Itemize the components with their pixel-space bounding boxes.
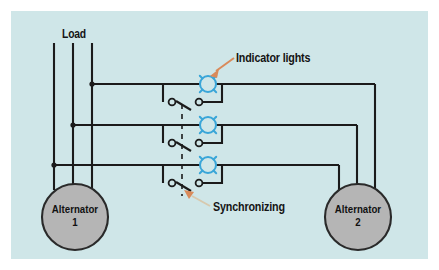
switch-contact-left-3[interactable] — [169, 180, 176, 187]
bus-phase-2 — [70, 122, 357, 192]
alternator-1-number: 1 — [46, 216, 104, 229]
lamp-ray-3d — [214, 171, 217, 174]
junction-dot-1 — [89, 81, 94, 86]
alternator-2-number: 2 — [329, 216, 387, 229]
lamp-ray-3a — [200, 157, 203, 160]
switch-contact-right-1[interactable] — [196, 99, 203, 106]
alternator-1-name: Alternator — [46, 203, 104, 216]
lamp-ray-3b — [214, 157, 217, 160]
callout-arrow-line-2 — [192, 196, 210, 206]
switch-blade-1 — [176, 101, 191, 110]
bus-phase-3 — [51, 162, 339, 192]
indicator-lamp-1 — [200, 76, 216, 92]
switch-contact-left-1[interactable] — [169, 99, 176, 106]
left-feeder-lines — [54, 43, 92, 190]
lamp-ray-2c — [200, 131, 203, 134]
switch-branch-1 — [163, 84, 222, 110]
synchronizing-callout-arrow — [184, 190, 210, 206]
load-label: Load — [62, 27, 86, 41]
alternator-2-name: Alternator — [329, 203, 387, 216]
lamp-ray-2a — [200, 117, 203, 120]
switch-contact-left-2[interactable] — [169, 140, 176, 147]
indicator-lamp-2 — [200, 117, 216, 133]
alternator-1-caption: Alternator 1 — [46, 203, 104, 228]
lamp-ray-1d — [214, 90, 217, 93]
switch-contact-right-3[interactable] — [196, 180, 203, 187]
indicator-lights-label: Indicator lights — [236, 51, 310, 65]
alternator-2-caption: Alternator 2 — [329, 203, 387, 228]
switch-contact-right-2[interactable] — [196, 140, 203, 147]
switch-branch-2 — [163, 125, 222, 151]
indicator-lights-callout-arrow — [210, 58, 234, 78]
switch-blade-3 — [176, 182, 191, 191]
switch-branch-3 — [163, 165, 222, 191]
lamp-ray-1c — [200, 90, 203, 93]
schematic-figure: Load Indicator lights Synchronizing Alte… — [0, 0, 439, 270]
switch-blade-2 — [176, 142, 191, 151]
synchronizing-label: Synchronizing — [213, 200, 285, 214]
bus-phase-1 — [89, 81, 375, 192]
callout-arrow-head-2 — [184, 190, 194, 199]
callout-arrow-line-1 — [216, 58, 234, 71]
lamp-ray-3c — [200, 171, 203, 174]
junction-dot-2 — [70, 122, 75, 127]
junction-dot-3 — [51, 162, 56, 167]
lamp-ray-1a — [200, 76, 203, 79]
lamp-ray-2b — [214, 117, 217, 120]
indicator-lamp-3 — [200, 157, 216, 173]
lamp-ray-2d — [214, 131, 217, 134]
